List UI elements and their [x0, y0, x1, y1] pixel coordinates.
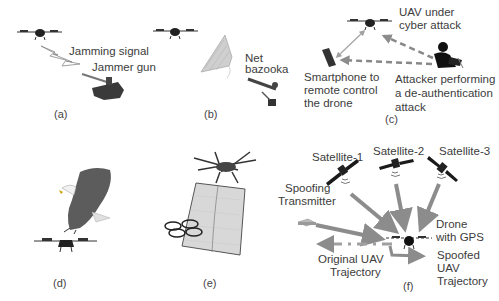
- attacker-label-line1: Attacker performing: [395, 73, 495, 86]
- caption-f: (f): [403, 280, 413, 292]
- satellite-1-label: Satellite-1: [312, 151, 363, 164]
- drone-icon-c: [347, 19, 392, 30]
- satellite-icon-3: [427, 156, 458, 182]
- smartphone-label-line1: Smartphone to: [304, 71, 379, 84]
- signal-arrow-sat2: [396, 184, 404, 225]
- signal-arrow-sat1: [351, 194, 393, 229]
- smartphone-icon: [322, 48, 336, 67]
- uav-label-line2: cyber attack: [399, 19, 461, 32]
- jammer-gun-label: Jammer gun: [92, 61, 156, 74]
- spoofed-trajectory-label-line2: UAV: [437, 262, 460, 275]
- caption-d: (d): [53, 277, 66, 289]
- attacker-icon: [434, 42, 463, 68]
- drone-icon-f: [386, 236, 432, 249]
- drone-gps-label-line1: Drone: [436, 218, 467, 231]
- spoofed-trajectory-label-line1: Spoofed: [437, 249, 480, 262]
- phone-drone-link: [339, 33, 362, 55]
- drone-icon-b: [153, 28, 198, 39]
- spoofing-transmitter-label-line1: Spoofing: [285, 182, 330, 195]
- smartphone-label-line3: the drone: [304, 97, 353, 110]
- attack-arrow-drone: [384, 36, 433, 58]
- original-trajectory-label-line2: Trajectory: [330, 266, 381, 279]
- satellite-icon-2: [379, 158, 414, 176]
- drone-icon-d: [34, 238, 97, 252]
- original-trajectory-label-line1: Original UAV: [318, 253, 384, 266]
- caption-b: (b): [204, 108, 217, 120]
- satellite-2-label: Satellite-2: [373, 145, 424, 158]
- jammer-gun-icon: [82, 74, 124, 100]
- spoofing-arrow: [316, 225, 378, 238]
- hexacopter-icon: [194, 152, 256, 183]
- net-bazooka-icon: [248, 79, 278, 106]
- caption-e: (e): [203, 277, 216, 289]
- satellite-3-label: Satellite-3: [439, 145, 490, 158]
- attacker-label-line2: a de-authentication: [395, 87, 493, 100]
- caption-c: (c): [385, 113, 398, 125]
- attack-arrow-phone: [342, 60, 432, 64]
- spoofed-trajectory-label-line3: Trajectory: [437, 275, 488, 288]
- net-drone-capture-icon: [182, 183, 245, 255]
- jamming-signal-label: Jamming signal: [69, 45, 149, 58]
- spoofing-transmitter-icon: [298, 219, 316, 226]
- eagle-icon: [59, 168, 111, 234]
- caption-a: (a): [54, 108, 67, 120]
- net-icon: [201, 35, 232, 78]
- smartphone-label-line2: remote control: [304, 84, 378, 97]
- net-bazooka-label-line2: bazooka: [245, 63, 288, 76]
- attacker-label-line3: attack: [395, 101, 426, 114]
- spoofed-trajectory-arrow: [390, 246, 420, 256]
- drone-icon-a: [17, 29, 62, 40]
- spoofing-transmitter-label-line2: Transmitter: [278, 195, 336, 208]
- uav-label-line1: UAV under: [399, 6, 454, 19]
- drone-gps-label-line2: with GPS: [436, 231, 484, 244]
